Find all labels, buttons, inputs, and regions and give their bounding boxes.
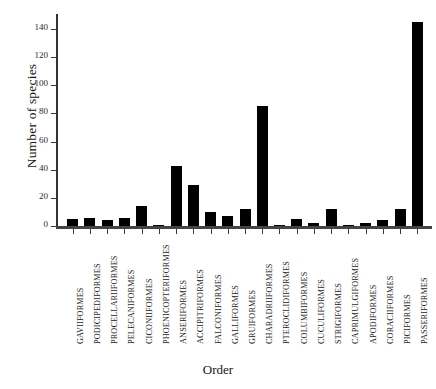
bar — [412, 22, 423, 226]
x-tick-label: PASSERIFORMES — [420, 277, 429, 344]
x-axis-line — [56, 226, 432, 229]
x-tick-label: PICIFORMES — [403, 294, 412, 344]
y-tick: 0 — [51, 226, 56, 227]
plot-area: 020406080100120140 — [56, 14, 432, 227]
x-tick-label: GAVIIFORMES — [76, 287, 85, 344]
bar — [377, 220, 388, 226]
x-tick-label: APODIFORMES — [369, 285, 378, 344]
y-tick-label: 40 — [39, 163, 48, 173]
bar-chart-figure: Number of species 020406080100120140 GAV… — [0, 0, 436, 389]
y-tick-label: 80 — [39, 106, 48, 116]
y-tick-label: 60 — [39, 135, 48, 145]
x-tick-label: PROCELLARIIFORMES — [110, 255, 119, 344]
x-tick-label: COLUMBIFORMES — [300, 272, 309, 344]
bar — [67, 219, 78, 226]
bar — [102, 220, 113, 226]
bar — [84, 218, 95, 226]
x-tick-label: STRIGIFORMES — [334, 283, 343, 344]
y-tick: 40 — [51, 170, 56, 171]
x-tick-label: FALCONIFORMES — [214, 274, 223, 344]
bar — [291, 219, 302, 226]
y-tick: 20 — [51, 198, 56, 199]
bar — [326, 209, 337, 226]
bar — [343, 225, 354, 226]
x-axis-title: Order — [0, 362, 436, 378]
x-tick-label: CHARADRIIFORMES — [265, 264, 274, 345]
x-tick-label: ANSERIFORMES — [179, 280, 188, 344]
x-tick-label: CICONIIFORMES — [145, 278, 154, 344]
x-tick-label: CUCULIFORMES — [317, 279, 326, 344]
x-tick-label: GRUIFORMES — [248, 290, 257, 344]
x-tick-label: PTEROCLIDIFORMES — [282, 261, 291, 344]
bar — [188, 185, 199, 226]
x-tick-label: PELECANIFORMES — [127, 270, 136, 344]
x-tick-label: PHOENICOPTERIFORMES — [162, 244, 171, 344]
y-tick: 140 — [51, 29, 56, 30]
bar — [119, 218, 130, 226]
bar — [257, 106, 268, 226]
bar — [395, 209, 406, 226]
y-tick-label: 140 — [35, 22, 49, 32]
bar — [360, 223, 371, 226]
bar — [205, 212, 216, 226]
x-tick-label: ACCIPITRIFORMES — [196, 269, 205, 344]
x-axis-category-labels: GAVIIFORMESPODICIPEDIFORMESPROCELLARIIFO… — [56, 232, 432, 352]
bar — [308, 223, 319, 226]
bar — [136, 206, 147, 226]
y-tick: 80 — [51, 113, 56, 114]
x-tick-label: CORACIIFORMES — [386, 276, 395, 344]
bar — [222, 216, 233, 226]
y-tick: 60 — [51, 142, 56, 143]
bar — [274, 225, 285, 226]
x-tick-label: GALLIFORMES — [231, 285, 240, 344]
y-tick-label: 0 — [44, 219, 49, 229]
y-tick: 100 — [51, 85, 56, 86]
y-tick-label: 20 — [39, 191, 48, 201]
y-tick-label: 120 — [35, 50, 49, 60]
bar — [240, 209, 251, 226]
y-axis-line — [56, 14, 58, 228]
bar — [171, 166, 182, 226]
x-tick-label: CAPRIMULGIFORMES — [351, 258, 360, 344]
bar — [153, 225, 164, 226]
y-tick-label: 100 — [35, 78, 49, 88]
y-tick: 120 — [51, 57, 56, 58]
x-tick-label: PODICIPEDIFORMES — [93, 263, 102, 344]
